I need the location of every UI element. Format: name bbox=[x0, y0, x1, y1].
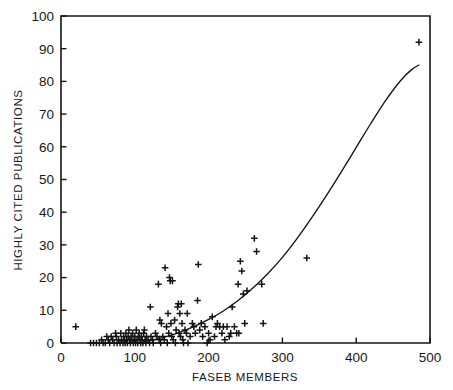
data-point-marker bbox=[244, 287, 251, 294]
data-point-marker bbox=[229, 304, 236, 311]
x-tick-label: 200 bbox=[197, 350, 220, 365]
data-point-marker bbox=[177, 310, 184, 317]
y-tick-label: 50 bbox=[39, 172, 54, 187]
y-tick-label: 40 bbox=[39, 205, 54, 220]
x-tick-label: 100 bbox=[124, 350, 147, 365]
data-point-marker bbox=[191, 323, 198, 330]
data-point-marker bbox=[211, 333, 218, 340]
data-point-marker bbox=[195, 261, 202, 268]
data-point-marker bbox=[152, 330, 159, 337]
data-point-marker bbox=[251, 235, 258, 242]
data-point-marker bbox=[165, 310, 172, 317]
x-tick-label: 300 bbox=[271, 350, 294, 365]
data-point-marker bbox=[182, 327, 189, 334]
y-tick-label: 80 bbox=[39, 74, 54, 89]
scatter-plot-figure: 0102030405060708090100 0100200300400500 … bbox=[0, 0, 453, 390]
y-tick-label: 20 bbox=[39, 270, 54, 285]
data-point-marker bbox=[205, 330, 212, 337]
data-point-marker bbox=[187, 333, 194, 340]
y-axis-title: HIGHLY CITED PUBLICATIONS bbox=[12, 89, 24, 270]
x-tick-label: 400 bbox=[345, 350, 368, 365]
data-point-marker bbox=[231, 323, 238, 330]
data-point-marker bbox=[194, 297, 201, 304]
data-point-marker bbox=[416, 39, 423, 46]
y-tick-label: 0 bbox=[46, 336, 54, 351]
data-point-marker bbox=[202, 323, 209, 330]
data-point-marker bbox=[199, 333, 206, 340]
data-point-marker bbox=[219, 330, 226, 337]
data-points bbox=[72, 39, 422, 346]
data-point-marker bbox=[141, 327, 148, 334]
data-point-marker bbox=[162, 264, 169, 271]
data-point-marker bbox=[171, 317, 178, 324]
y-tick-label: 60 bbox=[39, 140, 54, 155]
data-point-marker bbox=[158, 320, 165, 327]
data-point-marker bbox=[185, 340, 192, 347]
data-point-marker bbox=[168, 320, 175, 327]
y-tick-label: 100 bbox=[31, 9, 54, 24]
data-point-marker bbox=[226, 333, 233, 340]
data-point-marker bbox=[222, 336, 229, 343]
data-point-marker bbox=[241, 320, 248, 327]
data-point-marker bbox=[184, 310, 191, 317]
data-point-marker bbox=[192, 330, 199, 337]
x-tick-label: 0 bbox=[57, 350, 65, 365]
y-tick-label: 30 bbox=[39, 238, 54, 253]
data-point-marker bbox=[253, 248, 260, 255]
data-point-marker bbox=[72, 323, 79, 330]
data-point-marker bbox=[239, 268, 246, 275]
y-tick-label: 90 bbox=[39, 42, 54, 57]
data-point-marker bbox=[196, 327, 203, 334]
x-axis-title: FASEB MEMBERS bbox=[192, 371, 298, 383]
data-point-marker bbox=[235, 281, 242, 288]
x-tick-label: 500 bbox=[419, 350, 442, 365]
y-tick-label: 10 bbox=[39, 303, 54, 318]
data-point-marker bbox=[227, 330, 234, 337]
chart-canvas: 0102030405060708090100 0100200300400500 … bbox=[0, 0, 453, 390]
data-point-marker bbox=[260, 320, 267, 327]
data-point-marker bbox=[157, 317, 164, 324]
data-point-marker bbox=[147, 304, 154, 311]
data-point-marker bbox=[240, 291, 247, 298]
data-point-marker bbox=[198, 320, 205, 327]
data-point-marker bbox=[237, 258, 244, 265]
data-point-marker bbox=[179, 320, 186, 327]
data-point-marker bbox=[224, 323, 231, 330]
data-point-marker bbox=[303, 255, 310, 262]
data-point-marker bbox=[155, 281, 162, 288]
data-point-marker bbox=[163, 323, 170, 330]
y-tick-label: 70 bbox=[39, 107, 54, 122]
data-point-marker bbox=[157, 340, 164, 347]
